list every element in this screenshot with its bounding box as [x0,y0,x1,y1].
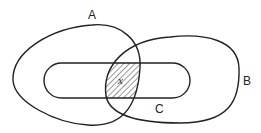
label-a: A [88,8,96,22]
label-b: B [243,74,251,88]
intersection-region [44,63,190,98]
venn-diagram: A B C x [0,0,261,133]
label-c: C [155,102,164,116]
label-x: x [117,74,123,86]
